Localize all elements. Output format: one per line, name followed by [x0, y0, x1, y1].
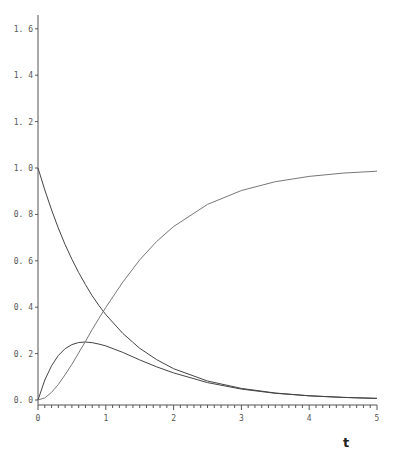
- y-tick-label: 0. 6: [14, 257, 33, 266]
- y-tick-label: 1. 0: [14, 164, 33, 173]
- series-line-c: [38, 171, 377, 400]
- y-tick-label: 0. 4: [14, 303, 33, 312]
- curves: [38, 168, 377, 400]
- axes: 0. 00. 20. 40. 60. 81. 01. 21. 41. 60123…: [14, 15, 380, 423]
- y-tick-label: 0. 0: [14, 396, 33, 405]
- y-tick-label: 0. 8: [14, 210, 33, 219]
- y-tick-label: 0. 2: [14, 350, 33, 359]
- series-line-a: [38, 168, 377, 398]
- x-tick-label: 4: [307, 414, 312, 423]
- x-tick-label: 0: [36, 414, 41, 423]
- x-axis-label: t: [343, 435, 349, 450]
- y-tick-label: 1. 6: [14, 25, 33, 34]
- y-tick-label: 1. 4: [14, 71, 33, 80]
- x-tick-label: 2: [171, 414, 176, 423]
- series-line-b: [38, 342, 377, 400]
- kinetics-line-chart: 0. 00. 20. 40. 60. 81. 01. 21. 41. 60123…: [0, 0, 394, 458]
- x-tick-label: 5: [375, 414, 380, 423]
- y-tick-label: 1. 2: [14, 118, 33, 127]
- x-tick-label: 1: [103, 414, 108, 423]
- x-tick-label: 3: [239, 414, 244, 423]
